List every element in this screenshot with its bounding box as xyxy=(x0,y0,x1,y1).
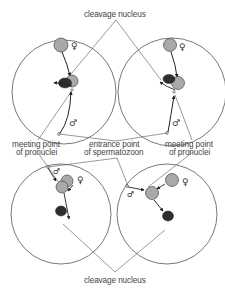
label-cleavage-nucleus-top: cleavage nucleus xyxy=(84,10,146,19)
egg-bottom-left-contents: ♂ ♀ xyxy=(47,166,84,219)
egg-bottom-right-contents: ♂ ♀ xyxy=(126,174,189,222)
male-pronucleus xyxy=(56,181,68,193)
egg-top-left-contents: ♀ ♂ xyxy=(54,38,78,135)
entrance-point xyxy=(126,185,129,188)
label-meeting-left-line2: of pronuclei xyxy=(16,148,57,157)
cleavage-nucleus xyxy=(163,75,175,84)
entrance-point xyxy=(58,133,61,136)
female-pronucleus xyxy=(164,39,177,52)
leader-cleavage-top xyxy=(66,20,161,80)
label-entrance-line2: of spermatozoon xyxy=(84,148,144,157)
male-symbol: ♂ xyxy=(172,118,180,128)
egg-top-right-contents: ♀ ♂ xyxy=(160,39,186,135)
entrance-point xyxy=(166,132,169,135)
leader-cleavage-bottom xyxy=(63,224,165,272)
female-symbol: ♀ xyxy=(71,41,78,51)
male-symbol: ♂ xyxy=(69,118,77,128)
male-symbol: ♂ xyxy=(127,190,134,199)
female-symbol: ♀ xyxy=(179,42,186,52)
cleavage-nucleus xyxy=(56,206,67,216)
female-pronucleus xyxy=(54,38,68,52)
label-meeting-right-line2: of pronuclei xyxy=(169,148,210,157)
female-symbol: ♀ xyxy=(77,175,84,185)
meeting-pronucleus xyxy=(146,187,159,200)
female-symbol: ♀ xyxy=(182,177,189,187)
entrance-point xyxy=(47,166,50,169)
cleavage-nucleus xyxy=(163,211,174,221)
female-pronucleus xyxy=(166,174,179,187)
label-cleavage-nucleus-bottom: cleavage nucleus xyxy=(84,276,146,285)
male-symbol: ♂ xyxy=(53,167,60,176)
